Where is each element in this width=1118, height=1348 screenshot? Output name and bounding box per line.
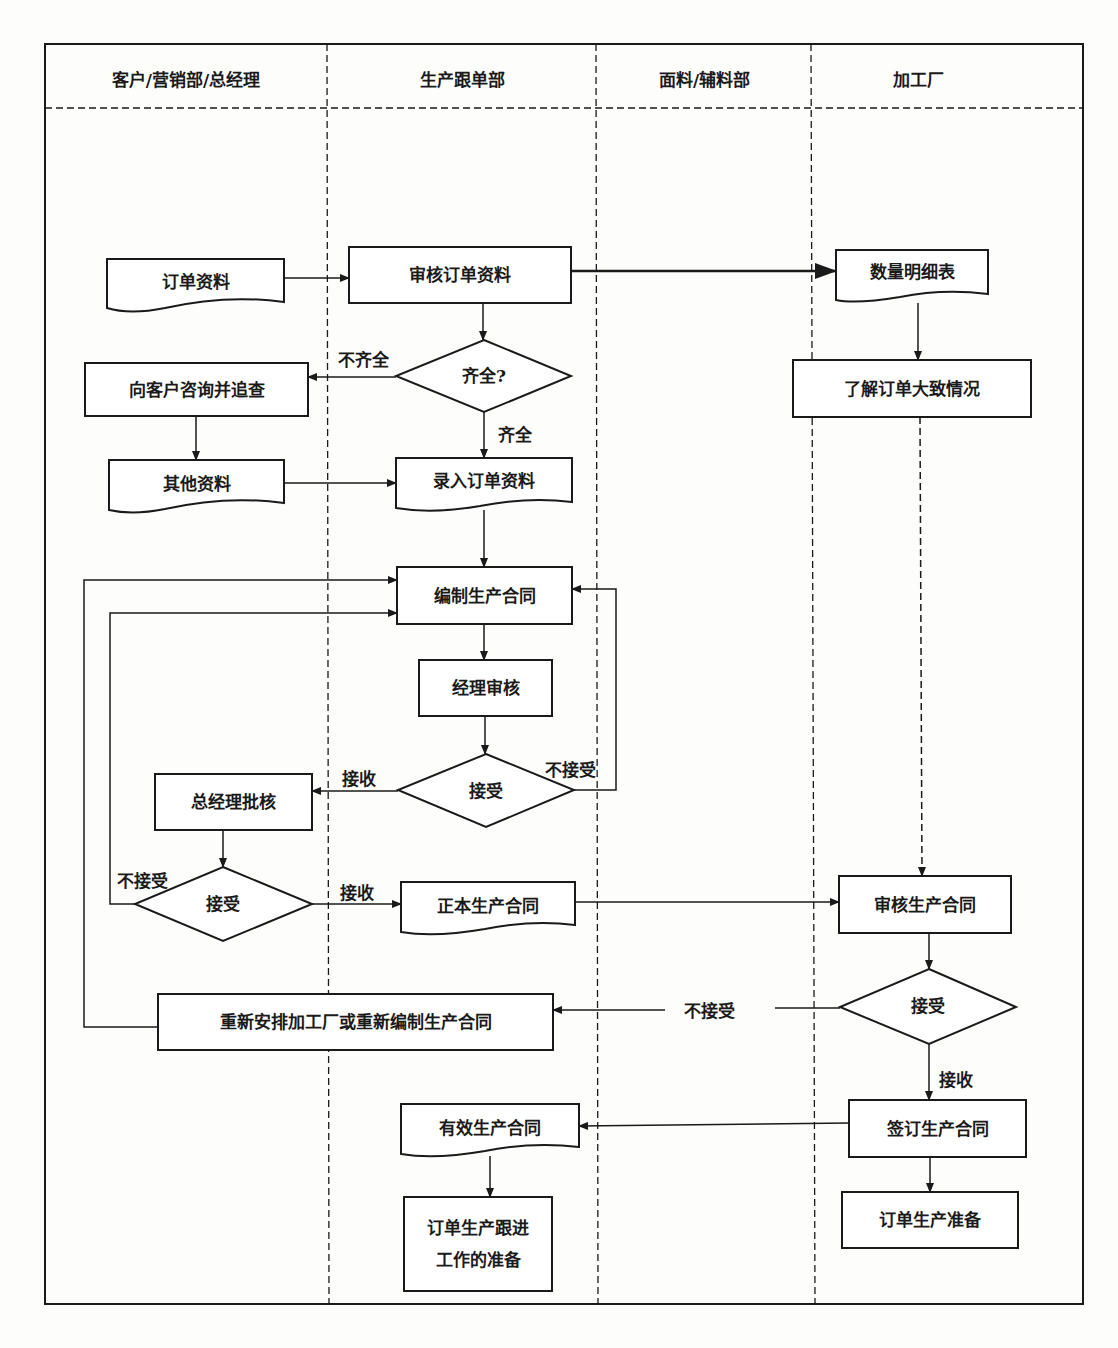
edge-label-reject-1: 不接受 (545, 756, 596, 781)
node-gm-approval: 总经理批核 (155, 774, 312, 830)
lane-divider-1 (327, 44, 329, 1304)
node-official-contract: 正本生产合同 (401, 886, 575, 926)
node-quantity-detail-sheet: 数量明细表 (836, 252, 988, 292)
edge-label-accept-2: 接收 (340, 879, 374, 904)
lane-divider-2 (596, 44, 598, 1304)
node-other-data: 其他资料 (109, 464, 284, 504)
node-draft-contract: 编制生产合同 (397, 567, 572, 624)
node-manager-review: 经理审核 (419, 660, 552, 716)
node-understand-order: 了解订单大致情况 (793, 360, 1031, 417)
node-review-order-data: 审核订单资料 (349, 247, 571, 303)
node-accept-check-1: 接受 (436, 775, 536, 807)
edge-label-complete: 齐全 (498, 421, 532, 446)
edge-accept2-reject-loop (110, 613, 397, 904)
node-followup-prep: 订单生产跟进 工作的准备 (404, 1197, 552, 1291)
node-sign-contract: 签订生产合同 (849, 1100, 1026, 1157)
node-order-data: 订单资料 (107, 262, 284, 302)
edge-label-reject-2: 不接受 (117, 867, 168, 892)
lane-header-fabric-dept: 面料/辅料部 (597, 64, 812, 96)
edge-label-reject-3: 不接受 (684, 997, 735, 1022)
node-rearrange: 重新安排加工厂或重新编制生产合同 (158, 994, 553, 1050)
node-accept-check-3: 接受 (878, 990, 978, 1022)
lane-header-customer: 客户/营销部/总经理 (45, 64, 327, 96)
edge-label-accept-1: 接收 (342, 765, 376, 790)
edge-sign-to-valid (579, 1123, 849, 1126)
node-production-prep: 订单生产准备 (842, 1192, 1018, 1248)
edge-label-incomplete: 不齐全 (338, 346, 389, 371)
node-enter-order-data: 录入订单资料 (396, 461, 572, 501)
node-factory-review-contract: 审核生产合同 (839, 876, 1011, 933)
lane-header-production-followup: 生产跟单部 (328, 64, 596, 96)
lane-header-factory: 加工厂 (813, 64, 1023, 96)
node-complete-check: 齐全? (430, 360, 538, 392)
lane-divider-3 (811, 44, 815, 1304)
node-valid-contract: 有效生产合同 (401, 1108, 579, 1148)
edge-understand-to-factory-review (920, 417, 922, 876)
node-accept-check-2: 接受 (173, 888, 273, 920)
node-consult-customer: 向客户咨询并追查 (85, 363, 308, 416)
edge-label-accept-3: 接收 (939, 1066, 973, 1091)
